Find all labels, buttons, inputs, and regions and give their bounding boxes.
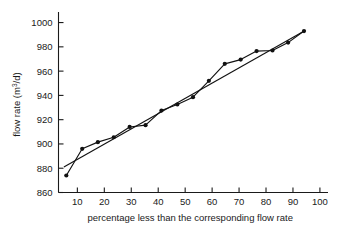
data-point	[112, 135, 116, 139]
y-tick-label: 940	[37, 90, 53, 101]
data-point	[64, 173, 68, 177]
y-tick-label: 900	[37, 138, 53, 149]
data-point	[286, 40, 290, 44]
x-tick-label: 20	[99, 196, 110, 207]
data-point	[159, 108, 163, 112]
x-tick-label: 70	[234, 196, 245, 207]
y-tick-label: 920	[37, 114, 53, 125]
y-tick-label: 880	[37, 163, 53, 174]
y-tick-label: 860	[37, 187, 53, 198]
axes	[59, 12, 329, 193]
x-tick-label: 30	[126, 196, 137, 207]
data-point	[175, 102, 179, 106]
x-tick-label: 80	[261, 196, 272, 207]
y-tick-label: 1000	[31, 17, 52, 28]
data-point	[96, 140, 100, 144]
x-tick-label: 100	[312, 196, 328, 207]
data-point	[223, 62, 227, 66]
data-point	[80, 147, 84, 151]
flow-rate-polyline	[66, 31, 304, 175]
data-point	[270, 48, 274, 52]
data-point	[128, 125, 132, 129]
axis-titles: percentage less than the corresponding f…	[11, 72, 293, 222]
data-point	[143, 123, 147, 127]
x-axis-ticks: 102030405060708090100	[72, 188, 328, 207]
data-points	[64, 29, 306, 178]
x-tick-label: 40	[153, 196, 164, 207]
y-tick-label: 960	[37, 66, 53, 77]
y-axis-title-tail: /d)	[11, 72, 22, 83]
data-point	[207, 79, 211, 83]
x-tick-label: 90	[288, 196, 299, 207]
y-axis-title: flow rate (m3/d)	[11, 72, 23, 136]
data-point	[302, 29, 306, 33]
x-axis-title: percentage less than the corresponding f…	[88, 212, 293, 223]
data-series-line	[66, 31, 304, 175]
data-point	[239, 57, 243, 61]
x-tick-label: 60	[207, 196, 218, 207]
y-axis-title-base: flow rate (m	[11, 87, 22, 137]
data-point	[254, 49, 258, 53]
data-point	[191, 95, 195, 99]
y-axis-title-text: flow rate (m3/d)	[11, 72, 23, 136]
y-tick-label: 980	[37, 41, 53, 52]
flow-rate-probability-chart: 8608809009209409609801000 10203040506070…	[0, 0, 340, 240]
chart-canvas: 8608809009209409609801000 10203040506070…	[0, 0, 340, 240]
x-tick-label: 10	[72, 196, 83, 207]
x-tick-label: 50	[180, 196, 191, 207]
